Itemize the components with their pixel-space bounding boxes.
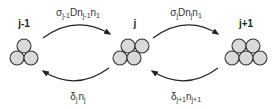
particle-icon — [24, 51, 38, 65]
rate-label-backward-j: δjnj — [70, 91, 86, 104]
cluster-label-j-plus-1: j+1 — [238, 18, 254, 29]
arrow-backward-j-plus-1-to-j — [152, 68, 218, 81]
rate-label-forward-j: σjDnjn1 — [170, 7, 202, 20]
particle-icon — [10, 51, 24, 65]
particle-icon — [113, 51, 127, 65]
particle-icon — [239, 51, 253, 65]
arrow-backward-j-to-j-minus-1 — [43, 68, 109, 81]
arrow-forward-j-minus-1-to-j — [43, 25, 110, 38]
cluster-j-plus-1 — [225, 39, 267, 65]
particle-icon — [253, 51, 267, 65]
rate-label-forward-j-minus-1: σj-1Dnj-1n1 — [56, 7, 100, 20]
cluster-label-j: j — [133, 18, 137, 29]
cluster-transition-diagram: j-1 j j+1 σj-1Dnj-1n1 σjDnjn1 δjnj δj+1n… — [0, 0, 274, 109]
cluster-j-minus-1 — [10, 39, 38, 65]
rate-label-backward-j-plus-1: δj+1nj+1 — [171, 91, 201, 104]
arrow-forward-j-to-j-plus-1 — [153, 25, 218, 38]
cluster-label-j-minus-1: j-1 — [17, 18, 30, 29]
cluster-j — [113, 39, 149, 65]
particle-icon — [135, 39, 149, 53]
particle-icon — [127, 51, 141, 65]
particle-icon — [225, 51, 239, 65]
